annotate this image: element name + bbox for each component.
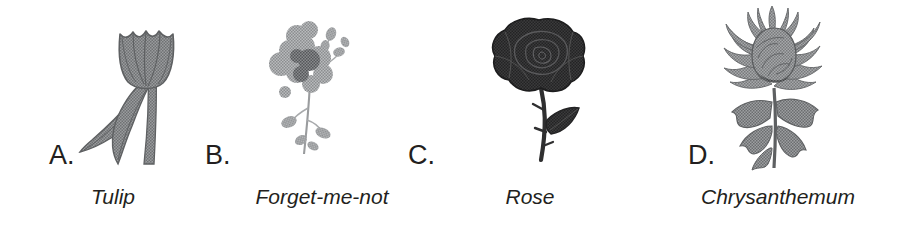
tulip-illustration <box>78 14 182 166</box>
option-letter-d: D. <box>688 142 715 169</box>
option-d[interactable]: D. Chrysanthemum <box>650 0 910 233</box>
rose-illustration <box>489 14 587 166</box>
option-letter-a: A. <box>49 142 75 169</box>
option-c[interactable]: C. Rose <box>408 0 650 233</box>
option-letter-c: C. <box>408 142 435 169</box>
chrysanthemum-illustration <box>714 2 832 172</box>
option-caption-c: Rose <box>380 186 680 207</box>
option-b[interactable]: B. Forget-me-not <box>205 0 408 233</box>
option-caption-d: Chrysanthemum <box>662 186 894 207</box>
figure-sheet: A. Tulip <box>0 0 910 233</box>
forget-me-not-illustration <box>267 16 353 160</box>
option-letter-b: B. <box>205 142 231 169</box>
